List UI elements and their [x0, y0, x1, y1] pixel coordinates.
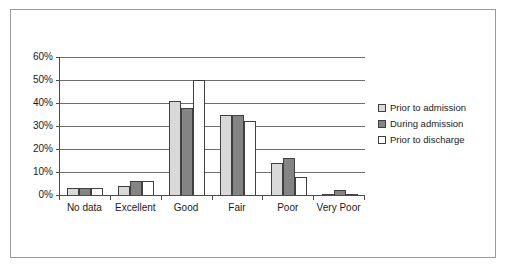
bar[interactable]: [220, 115, 232, 196]
bar[interactable]: [322, 194, 334, 196]
bar-group: [314, 57, 365, 195]
x-axis-category-label: Poor: [277, 202, 298, 213]
bar-group: [60, 57, 111, 195]
y-axis-tick-label: 30%: [19, 121, 53, 131]
plot-area: [59, 57, 365, 196]
legend-label: Prior to discharge: [390, 135, 464, 145]
x-axis-tick-mark: [110, 196, 111, 200]
legend-label: During admission: [390, 119, 463, 129]
x-axis-category-labels: No dataExcellentGoodFairPoorVery Poor: [59, 202, 364, 218]
legend-item[interactable]: During admission: [378, 116, 496, 132]
legend-swatch-icon: [378, 120, 386, 128]
bar[interactable]: [295, 177, 307, 195]
bar-group: [111, 57, 162, 195]
x-axis-tick-mark: [212, 196, 213, 200]
x-axis-category-label: Fair: [228, 202, 245, 213]
x-axis-tick-mark: [161, 196, 162, 200]
bar[interactable]: [91, 188, 103, 195]
bar[interactable]: [130, 181, 142, 195]
bar-group: [213, 57, 264, 195]
bar[interactable]: [118, 186, 130, 195]
x-axis-category-label: Excellent: [115, 202, 156, 213]
y-axis-tick-label: 0%: [19, 190, 53, 200]
x-axis-category-label: Very Poor: [317, 202, 361, 213]
bar[interactable]: [142, 181, 154, 195]
y-axis-tick-label: 50%: [19, 75, 53, 85]
chart-legend: Prior to admissionDuring admissionPrior …: [378, 100, 496, 148]
y-axis-tick-label: 60%: [19, 52, 53, 62]
bar[interactable]: [67, 188, 79, 195]
x-axis-tick-mark: [59, 196, 60, 200]
bar[interactable]: [271, 163, 283, 195]
x-axis-tick-mark: [313, 196, 314, 200]
bar-group: [263, 57, 314, 195]
bar[interactable]: [193, 80, 205, 195]
x-axis-category-label: Good: [174, 202, 198, 213]
bar-groups: [60, 57, 365, 195]
y-axis-tick-labels: 0%10%20%30%40%50%60%: [19, 10, 53, 259]
bar[interactable]: [232, 115, 244, 196]
legend-item[interactable]: Prior to admission: [378, 100, 496, 116]
bar[interactable]: [79, 188, 91, 195]
legend-swatch-icon: [378, 136, 386, 144]
legend-swatch-icon: [378, 104, 386, 112]
bar[interactable]: [283, 158, 295, 195]
y-axis-tick-label: 40%: [19, 98, 53, 108]
legend-label: Prior to admission: [390, 103, 466, 113]
bar[interactable]: [244, 121, 256, 195]
bar-group: [162, 57, 213, 195]
legend-item[interactable]: Prior to discharge: [378, 132, 496, 148]
bar[interactable]: [334, 190, 346, 195]
bar[interactable]: [181, 108, 193, 195]
y-axis-tick-label: 20%: [19, 144, 53, 154]
bar-chart: 0%10%20%30%40%50%60% No dataExcellentGoo…: [11, 10, 497, 259]
bar[interactable]: [169, 101, 181, 195]
x-axis-tick-marks: [59, 196, 365, 201]
bar[interactable]: [346, 194, 358, 196]
x-axis-category-label: No data: [67, 202, 102, 213]
y-axis-tick-label: 10%: [19, 167, 53, 177]
x-axis-tick-mark: [262, 196, 263, 200]
x-axis-tick-mark: [364, 196, 365, 200]
chart-figure-frame: 0%10%20%30%40%50%60% No dataExcellentGoo…: [10, 9, 496, 258]
